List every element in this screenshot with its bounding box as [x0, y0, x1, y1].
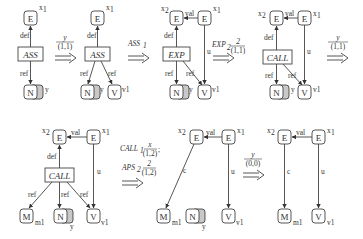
svg-text:E: E	[28, 14, 34, 24]
svg-text:M: M	[159, 212, 167, 222]
svg-text:(1,1): (1,1)	[231, 46, 246, 55]
transition-2: ASS1	[127, 39, 149, 63]
graph-2: E x1 def ASS ref ref N y V v1	[80, 3, 130, 99]
svg-text:ASS: ASS	[127, 39, 140, 48]
svg-text:M: M	[22, 212, 30, 222]
svg-text:v1: v1	[122, 85, 130, 94]
svg-text:M: M	[280, 212, 288, 222]
svg-text:ref: ref	[108, 69, 117, 78]
svg-text:(0,0): (0,0)	[246, 159, 261, 168]
svg-text:N: N	[84, 88, 91, 98]
svg-text:v1: v1	[212, 85, 220, 94]
svg-text:N: N	[27, 88, 34, 98]
svg-text:m1: m1	[172, 218, 182, 227]
svg-text:V: V	[201, 88, 208, 98]
svg-text:E: E	[202, 14, 208, 24]
svg-text:2: 2	[137, 165, 141, 174]
svg-text:val: val	[296, 128, 305, 137]
svg-text:2: 2	[262, 11, 266, 20]
transition-5: CALL 1 x (1,2) ; APS 2 2 (1,2)	[120, 140, 160, 188]
svg-text:y: y	[100, 85, 104, 94]
svg-text:ref: ref	[20, 69, 29, 78]
svg-text:(1,2): (1,2)	[142, 168, 157, 177]
svg-text:x: x	[147, 140, 152, 149]
svg-text:E: E	[57, 133, 63, 143]
transition-6: y (0,0)	[243, 150, 264, 180]
svg-text:1: 1	[110, 5, 114, 14]
svg-text:ref: ref	[165, 69, 174, 78]
svg-text:y: y	[62, 33, 67, 42]
svg-text:E: E	[226, 133, 232, 143]
svg-text:c: c	[287, 167, 291, 176]
svg-text:E: E	[302, 14, 308, 24]
svg-text:2: 2	[147, 159, 151, 168]
svg-text:V: V	[315, 212, 322, 222]
svg-text:N: N	[273, 88, 280, 98]
svg-text:m1: m1	[293, 218, 303, 227]
svg-text:E: E	[91, 133, 97, 143]
svg-text:u: u	[321, 167, 325, 176]
svg-text:val: val	[285, 9, 294, 18]
svg-text:(1,1): (1,1)	[58, 42, 73, 51]
svg-text:y: y	[250, 150, 255, 159]
svg-text:ref: ref	[265, 71, 274, 80]
svg-text:(1,1): (1,1)	[331, 42, 346, 51]
svg-text:u: u	[207, 47, 211, 56]
svg-text:m1: m1	[35, 218, 45, 227]
svg-text:EXP: EXP	[211, 40, 226, 49]
svg-text:V: V	[90, 212, 97, 222]
svg-text:ref: ref	[28, 190, 37, 199]
svg-text:V: V	[301, 88, 308, 98]
svg-text:u: u	[231, 167, 235, 176]
svg-text:N: N	[189, 212, 196, 222]
svg-text:val: val	[206, 128, 215, 137]
svg-text:1: 1	[317, 11, 321, 20]
svg-text:u: u	[307, 47, 311, 56]
svg-text:y: y	[189, 85, 193, 94]
svg-text:def: def	[47, 152, 57, 161]
graph-6: E x2 E x1 val c u M m1 N y V v1	[157, 126, 245, 231]
svg-text:N: N	[173, 88, 180, 98]
svg-text:1: 1	[241, 128, 245, 137]
svg-text:ASS: ASS	[22, 50, 38, 60]
svg-text:def: def	[164, 31, 174, 40]
svg-text:ref: ref	[61, 190, 70, 199]
transition-1: y (1,1)	[55, 33, 76, 63]
svg-text:1: 1	[217, 6, 221, 15]
graph-7: E x2 E x1 val c u M m1 V v1	[267, 126, 335, 227]
svg-text:EXP: EXP	[167, 50, 185, 60]
svg-text:1: 1	[331, 128, 335, 137]
svg-text:ref: ref	[80, 69, 89, 78]
svg-text:2: 2	[271, 128, 275, 137]
svg-text:V: V	[225, 212, 232, 222]
svg-text:E: E	[316, 133, 322, 143]
svg-text:E: E	[282, 133, 288, 143]
transition-4: y (1,1)	[327, 33, 348, 63]
svg-text:val: val	[185, 9, 194, 18]
svg-text:def: def	[20, 31, 30, 40]
svg-text:val: val	[71, 128, 80, 137]
svg-text:E: E	[274, 14, 280, 24]
svg-text:(1,2): (1,2)	[143, 149, 158, 158]
svg-text:y: y	[202, 222, 206, 231]
svg-text:def: def	[87, 31, 97, 40]
svg-text:v1: v1	[101, 218, 109, 227]
svg-text:CALL: CALL	[120, 144, 138, 153]
svg-text:;: ;	[158, 145, 160, 154]
svg-text:1: 1	[106, 128, 110, 137]
svg-text:APS: APS	[121, 163, 135, 172]
svg-text:y: y	[70, 222, 74, 231]
svg-text:2: 2	[165, 6, 169, 15]
svg-text:CALL: CALL	[49, 171, 71, 181]
svg-text:v1: v1	[236, 218, 244, 227]
svg-text:2: 2	[182, 128, 186, 137]
svg-text:c: c	[183, 166, 187, 175]
svg-text:N: N	[57, 212, 64, 222]
svg-text:V: V	[111, 88, 118, 98]
svg-text:E: E	[95, 14, 101, 24]
svg-text:ref: ref	[288, 71, 297, 80]
svg-text:CALL: CALL	[267, 53, 289, 63]
svg-text:y: y	[45, 85, 49, 94]
graph-3: E x2 E x1 val def u EXP ref ref N y V v1	[161, 4, 221, 99]
transition-3: EXP 2 2 (1,1)	[211, 37, 246, 63]
